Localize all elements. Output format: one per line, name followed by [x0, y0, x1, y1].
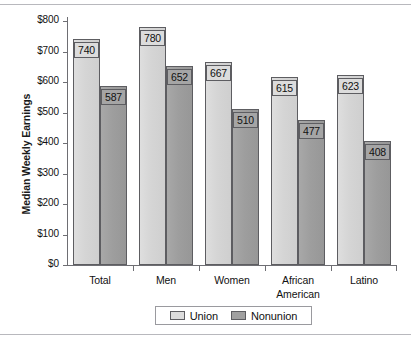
x-axis-tick — [133, 266, 134, 271]
y-axis-tick-label: $200 — [37, 197, 59, 208]
bar-value-label: 667 — [206, 65, 231, 81]
x-axis-tick — [396, 266, 397, 271]
y-axis-tick-label: $300 — [37, 167, 59, 178]
y-axis-line — [67, 17, 68, 266]
top-divider-rule — [0, 4, 411, 5]
chart-legend: UnionNonunion — [155, 306, 312, 325]
bar-union-african-american — [271, 77, 298, 265]
y-axis-tick: $800 — [63, 21, 68, 22]
bar-union-men — [139, 27, 166, 265]
bar-nonunion-men — [166, 66, 193, 265]
y-axis-tick-label: $500 — [37, 106, 59, 117]
dark-gray-swatch — [231, 311, 246, 320]
bar-value-label: 477 — [299, 123, 324, 139]
bar-union-women — [205, 62, 232, 265]
category-label: Men — [133, 273, 199, 287]
bar-value-label: 587 — [101, 89, 126, 105]
bar-value-label: 615 — [272, 80, 297, 96]
bar-nonunion-african-american — [298, 120, 325, 265]
bar-value-label: 740 — [74, 42, 99, 58]
category-label: African American — [265, 273, 331, 301]
y-axis-tick: $100 — [63, 235, 68, 236]
category-label: Total — [67, 273, 133, 287]
y-axis-tick-label: $0 — [48, 258, 59, 269]
bar-nonunion-women — [232, 109, 259, 265]
bar-value-label: 408 — [365, 144, 390, 160]
bar-union-latino — [337, 75, 364, 265]
category-label: Latino — [331, 273, 397, 287]
y-axis-tick: $200 — [63, 204, 68, 205]
chart-figure: Median Weekly Earnings $0$100$200$300$40… — [0, 0, 411, 344]
y-axis-tick-label: $600 — [37, 75, 59, 86]
bar-value-label: 623 — [338, 78, 363, 94]
y-axis-tick: $700 — [63, 52, 68, 53]
bottom-divider-rule — [0, 334, 411, 335]
legend-entry-union[interactable]: Union — [170, 310, 218, 322]
y-axis-title: Median Weekly Earnings — [20, 54, 32, 254]
y-axis-tick: $500 — [63, 113, 68, 114]
legend-label: Nonunion — [251, 310, 297, 322]
y-axis-tick-label: $700 — [37, 45, 59, 56]
x-axis-tick — [331, 266, 332, 271]
bar-nonunion-total — [100, 86, 127, 265]
legend-label: Union — [190, 310, 218, 322]
light-gray-swatch — [170, 311, 185, 320]
y-axis-tick: $0 — [63, 265, 68, 266]
category-label: Women — [199, 273, 265, 287]
y-axis-tick: $300 — [63, 174, 68, 175]
bar-union-total — [73, 39, 100, 265]
x-axis-line — [67, 265, 397, 266]
y-axis-tick: $400 — [63, 143, 68, 144]
bar-value-label: 510 — [233, 112, 258, 128]
y-axis-tick: $600 — [63, 82, 68, 83]
y-axis-tick-label: $400 — [37, 136, 59, 147]
bar-value-label: 780 — [140, 30, 165, 46]
bar-value-label: 652 — [167, 69, 192, 85]
y-axis-tick-label: $100 — [37, 228, 59, 239]
plot-area: $0$100$200$300$400$500$600$700$800 74058… — [67, 17, 397, 266]
x-axis-tick — [265, 266, 266, 271]
legend-entry-nonunion[interactable]: Nonunion — [231, 310, 297, 322]
y-axis-tick-label: $800 — [37, 14, 59, 25]
x-axis-tick — [199, 266, 200, 271]
